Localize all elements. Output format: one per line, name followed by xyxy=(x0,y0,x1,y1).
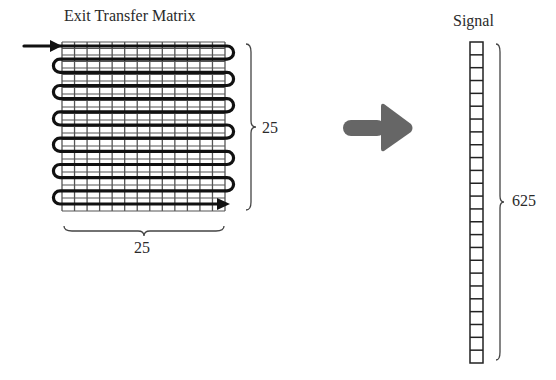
entry-arrow-icon xyxy=(50,40,62,52)
matrix-title: Exit Transfer Matrix xyxy=(64,8,196,24)
cols-brace-icon xyxy=(64,226,224,236)
matrix-cols-label: 25 xyxy=(134,240,150,256)
signal-length-label: 625 xyxy=(512,193,536,209)
signal-title: Signal xyxy=(453,13,494,29)
signal-brace-icon xyxy=(496,44,504,360)
rows-brace-icon xyxy=(246,44,256,210)
matrix-rows-label: 25 xyxy=(262,120,278,136)
diagram-canvas xyxy=(0,0,556,380)
signal-vector xyxy=(470,42,483,363)
arrow-right-icon xyxy=(343,104,413,152)
